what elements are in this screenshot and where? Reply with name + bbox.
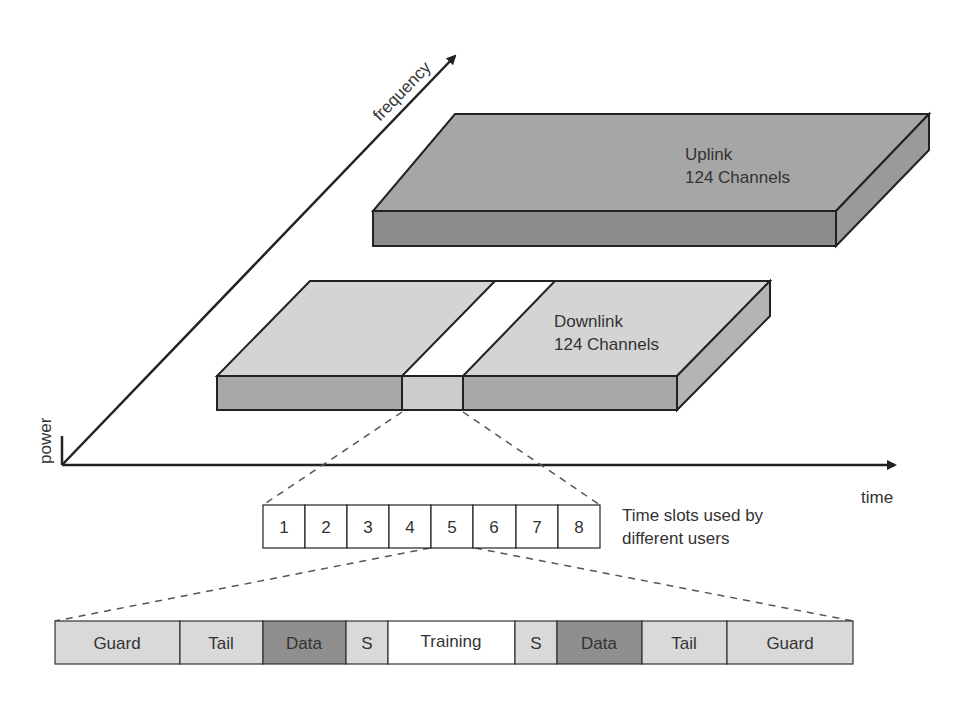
time-slots-caption-line1: Time slots used by [622, 506, 764, 525]
svg-text:S: S [361, 634, 372, 653]
zoom-line-left-1 [263, 412, 402, 505]
zoom-line-right-1 [463, 412, 600, 505]
svg-text:Data: Data [581, 634, 617, 653]
svg-text:7: 7 [532, 518, 541, 537]
time-label: time [861, 488, 893, 507]
burst-field-stealing: S [346, 621, 388, 664]
uplink-subtitle: 124 Channels [685, 168, 790, 187]
uplink-title: Uplink [685, 145, 733, 164]
downlink-title: Downlink [554, 312, 623, 331]
svg-text:8: 8 [574, 518, 583, 537]
time-slot: 1 [263, 505, 305, 548]
uplink-top-face [373, 114, 929, 211]
svg-text:1: 1 [279, 518, 288, 537]
time-slot: 6 [473, 505, 516, 548]
time-slot: 3 [347, 505, 389, 548]
svg-text:S: S [530, 634, 541, 653]
burst-field-data: Data [263, 621, 346, 664]
svg-text:Guard: Guard [766, 634, 813, 653]
time-slot: 5 [431, 505, 473, 548]
burst-field-guard: Guard [727, 621, 853, 664]
svg-text:3: 3 [363, 518, 372, 537]
svg-text:2: 2 [321, 518, 330, 537]
burst-field-tail: Tail [180, 621, 263, 664]
svg-text:Guard: Guard [93, 634, 140, 653]
time-slot: 7 [516, 505, 558, 548]
burst-field-tail: Tail [642, 621, 727, 664]
time-slots-caption-line2: different users [622, 529, 729, 548]
burst-field-data: Data [557, 621, 642, 664]
uplink-front-face [373, 211, 836, 246]
svg-text:Tail: Tail [208, 634, 234, 653]
power-label: power [36, 417, 55, 464]
uplink-slab: Uplink 124 Channels [373, 114, 929, 246]
downlink-slab: Downlink 124 Channels [217, 281, 770, 410]
burst-structure: Guard Tail Data S Training S Data Tail [55, 621, 853, 664]
svg-text:Tail: Tail [671, 634, 697, 653]
burst-field-stealing: S [515, 621, 557, 664]
frequency-label: frequency [369, 58, 435, 125]
downlink-highlight-front [402, 376, 463, 410]
burst-field-training: Training [388, 621, 515, 664]
gsm-fdma-tdma-diagram: frequency power time Uplink 124 Channels… [0, 0, 965, 701]
time-slot: 2 [305, 505, 347, 548]
svg-text:6: 6 [489, 518, 498, 537]
time-slots: 1 2 3 4 5 6 7 8 Time slots use [263, 505, 764, 548]
burst-field-guard: Guard [55, 621, 180, 664]
zoom-line-right-2 [475, 548, 853, 621]
svg-text:Data: Data [286, 634, 322, 653]
time-slot: 4 [389, 505, 431, 548]
svg-text:5: 5 [447, 518, 456, 537]
zoom-line-left-2 [55, 548, 430, 621]
time-slot: 8 [558, 505, 600, 548]
svg-text:Training: Training [421, 632, 482, 651]
downlink-subtitle: 124 Channels [554, 335, 659, 354]
svg-text:4: 4 [405, 518, 414, 537]
